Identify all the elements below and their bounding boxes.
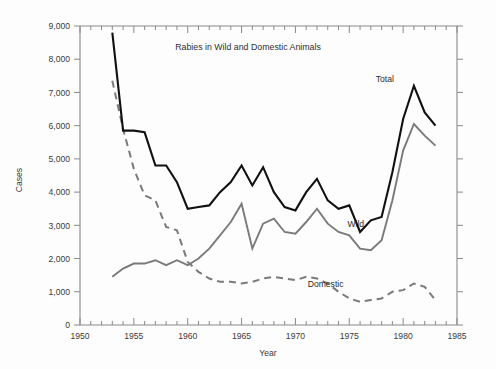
x-tick-label: 1985	[447, 331, 466, 341]
y-tick-label: 8,000	[48, 54, 70, 64]
y-tick-label: 2,000	[48, 254, 70, 264]
x-tick-label: 1975	[340, 331, 359, 341]
y-axis-ticks	[74, 26, 463, 325]
chart-figure: 19501955196019651970197519801985 01,0002…	[0, 0, 496, 369]
series-line-wild	[112, 124, 435, 277]
x-tick-label: 1950	[70, 331, 89, 341]
y-axis-tick-labels: 01,0002,0003,0004,0005,0006,0007,0008,00…	[48, 21, 70, 330]
x-axis-tick-labels: 19501955196019651970197519801985	[70, 331, 466, 341]
series-label-total: Total	[376, 74, 394, 84]
chart-series-group	[112, 33, 435, 302]
series-label-domestic: Domestic	[308, 279, 345, 289]
y-tick-label: 3,000	[48, 221, 70, 231]
chart-title: Rabies in Wild and Domestic Animals	[175, 42, 321, 52]
y-axis-label: Cases	[14, 168, 24, 192]
x-tick-label: 1970	[286, 331, 305, 341]
series-annotations: TotalWildDomestic	[308, 74, 394, 288]
y-tick-label: 7,000	[48, 88, 70, 98]
y-tick-label: 5,000	[48, 154, 70, 164]
x-axis-label: Year	[259, 348, 277, 358]
rabies-line-chart: 19501955196019651970197519801985 01,0002…	[0, 0, 496, 369]
x-tick-label: 1965	[232, 331, 251, 341]
y-tick-label: 1,000	[48, 287, 70, 297]
y-tick-label: 6,000	[48, 121, 70, 131]
y-tick-label: 9,000	[48, 21, 70, 31]
x-tick-label: 1980	[394, 331, 413, 341]
x-tick-label: 1960	[178, 331, 197, 341]
series-line-total	[112, 33, 435, 232]
y-tick-label: 0	[65, 320, 70, 330]
x-tick-label: 1955	[124, 331, 143, 341]
series-label-wild: Wild	[347, 219, 364, 229]
y-tick-label: 4,000	[48, 187, 70, 197]
